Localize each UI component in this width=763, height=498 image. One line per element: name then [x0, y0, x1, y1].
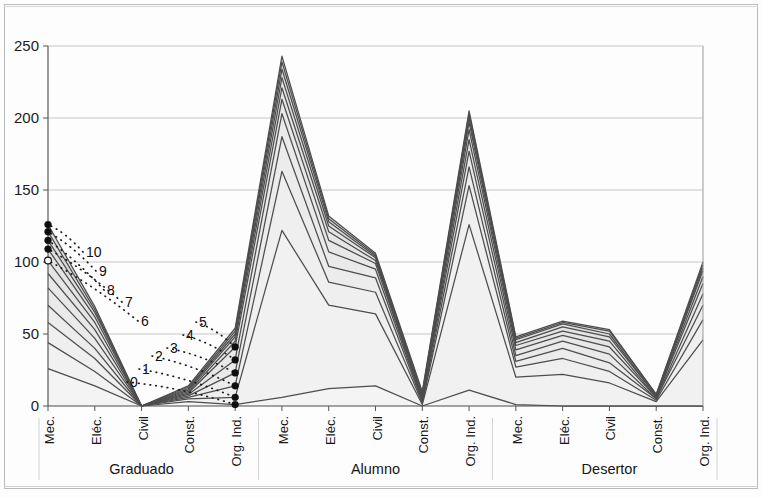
y-tick-label: 100 [14, 253, 39, 270]
series-callout-label-9: 9 [99, 263, 107, 279]
x-category-label: Org. Ind. [229, 416, 244, 467]
callout-marker-2 [232, 382, 239, 389]
callout-marker-7 [45, 246, 52, 253]
callout-marker-0 [232, 401, 239, 408]
y-tick-label: 200 [14, 109, 39, 126]
x-category-label: Civil [603, 416, 618, 441]
x-category-label: Org. Ind. [463, 416, 478, 467]
callout-marker-6 [45, 257, 52, 264]
series-callout-label-3: 3 [170, 340, 178, 356]
x-category-label: Eléc. [323, 416, 338, 445]
y-tick-label: 150 [14, 181, 39, 198]
area-chart: 050100150200250 Mec.Eléc.CivilConst.Org.… [0, 0, 763, 498]
x-category-label: Mec. [510, 416, 525, 444]
series-callout-label-7: 7 [125, 294, 133, 310]
x-category-label: Const. [416, 416, 431, 454]
x-group-label: Alumno [351, 461, 400, 477]
x-category-label: Const. [650, 416, 665, 454]
series-callout-label-10: 10 [86, 244, 102, 260]
y-tick-label: 250 [14, 37, 39, 54]
series-bands-group [48, 56, 703, 406]
callout-marker-3 [232, 369, 239, 376]
x-category-label: Eléc. [557, 416, 572, 445]
callout-marker-9 [45, 228, 52, 235]
callout-marker-5 [232, 344, 239, 351]
series-callout-label-2: 2 [155, 348, 163, 364]
x-category-label: Civil [370, 416, 385, 441]
x-category-label: Org. Ind. [697, 416, 712, 467]
series-callout-label-4: 4 [186, 327, 194, 343]
x-category-label: Const. [182, 416, 197, 454]
x-category-label: Mec. [42, 416, 57, 444]
x-category-label: Civil [136, 416, 151, 441]
x-category-label: Mec. [276, 416, 291, 444]
y-tick-label: 50 [22, 325, 39, 342]
callout-marker-4 [232, 357, 239, 364]
chart-page: 050100150200250 Mec.Eléc.CivilConst.Org.… [0, 0, 763, 498]
series-callout-label-0: 0 [130, 374, 138, 390]
series-callout-label-1: 1 [142, 361, 150, 377]
callout-marker-8 [45, 237, 52, 244]
x-group-label: Desertor [582, 461, 638, 477]
y-tick-label: 0 [31, 397, 39, 414]
series-callout-label-6: 6 [141, 313, 149, 329]
y-axis-labels: 050100150200250 [14, 37, 39, 414]
x-axis-category-labels: Mec.Eléc.CivilConst.Org. Ind.Mec.Eléc.Ci… [42, 416, 712, 467]
callout-marker-10 [45, 221, 52, 228]
x-category-label: Eléc. [89, 416, 104, 445]
x-group-label: Graduado [109, 461, 174, 477]
series-callout-label-5: 5 [199, 314, 207, 330]
callout-marker-1 [232, 394, 239, 401]
